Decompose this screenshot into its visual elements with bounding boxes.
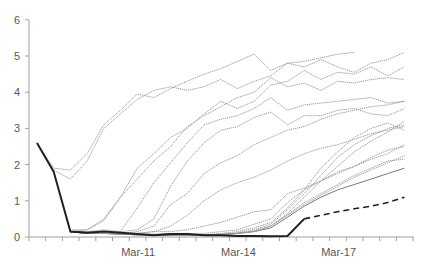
series-line-s15 [70, 156, 404, 236]
y-tick-label: 5 [14, 50, 20, 62]
series-line-s5 [70, 98, 404, 232]
y-tick-label: 1 [14, 195, 20, 207]
chart-series [37, 52, 404, 236]
x-tick-label: Mar-17 [321, 246, 356, 258]
series-line-s12 [70, 125, 404, 235]
y-tick-label: 3 [14, 122, 20, 134]
y-tick-label: 2 [14, 159, 20, 171]
series-line-s2 [37, 52, 404, 179]
series-line-s13 [70, 121, 404, 235]
y-tick-label: 0 [14, 231, 20, 243]
y-tick-label: 6 [14, 14, 20, 26]
series-line-s3 [70, 67, 404, 230]
series-line-s7 [70, 101, 404, 233]
series-line-s10 [70, 147, 404, 235]
line-chart: 0123456Mar-11Mar-14Mar-17 [0, 0, 429, 272]
x-tick-label: Mar-14 [221, 246, 256, 258]
series-line-bold [37, 143, 304, 236]
series-line-s6 [70, 109, 404, 232]
y-tick-label: 4 [14, 86, 20, 98]
series-line-s1 [37, 52, 354, 170]
series-line-s14 [70, 168, 404, 235]
x-tick-label: Mar-11 [121, 246, 155, 258]
series-line-s9 [70, 145, 404, 234]
series-line-projection [304, 197, 404, 219]
